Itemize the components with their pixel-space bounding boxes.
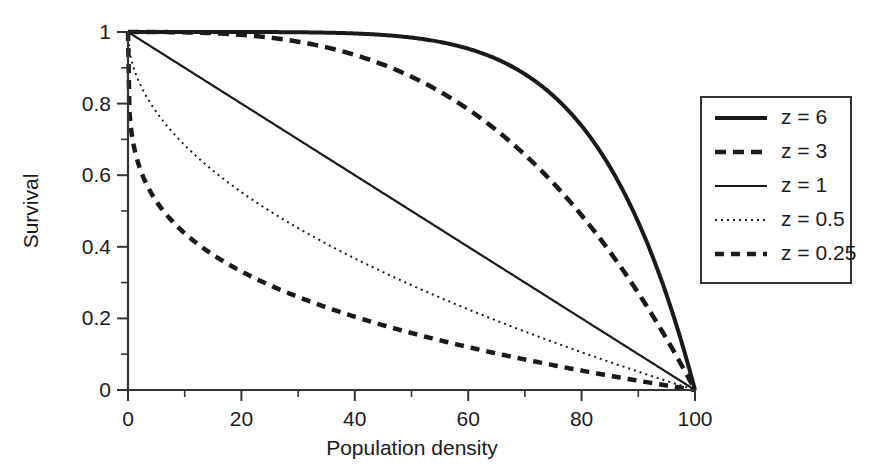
legend: z = 6z = 3z = 1z = 0.5z = 0.25 [701, 97, 856, 283]
y-tick-label: 0.8 [82, 92, 111, 115]
y-tick-label: 0.6 [82, 163, 111, 186]
y-tick-label: 0 [99, 378, 111, 401]
legend-label-0: z = 6 [781, 105, 827, 128]
x-tick-label: 40 [343, 407, 366, 430]
legend-label-3: z = 0.5 [781, 207, 845, 230]
x-tick-label: 80 [570, 407, 593, 430]
legend-label-1: z = 3 [781, 139, 827, 162]
survival-vs-population-density-chart: 00.20.40.60.81 020406080100 Survival Pop… [0, 0, 881, 473]
x-tick-label: 20 [230, 407, 253, 430]
x-tick-label: 0 [122, 407, 134, 430]
y-tick-label: 1 [99, 20, 111, 43]
y-axis-title: Survival [19, 174, 42, 249]
y-tick-label: 0.4 [82, 235, 112, 258]
legend-label-2: z = 1 [781, 173, 827, 196]
x-tick-label: 60 [457, 407, 480, 430]
x-tick-label: 100 [677, 407, 712, 430]
x-axis-title: Population density [326, 436, 498, 459]
chart-figure: 00.20.40.60.81 020406080100 Survival Pop… [0, 0, 881, 473]
legend-label-4: z = 0.25 [781, 241, 856, 264]
y-tick-label: 0.2 [82, 306, 111, 329]
